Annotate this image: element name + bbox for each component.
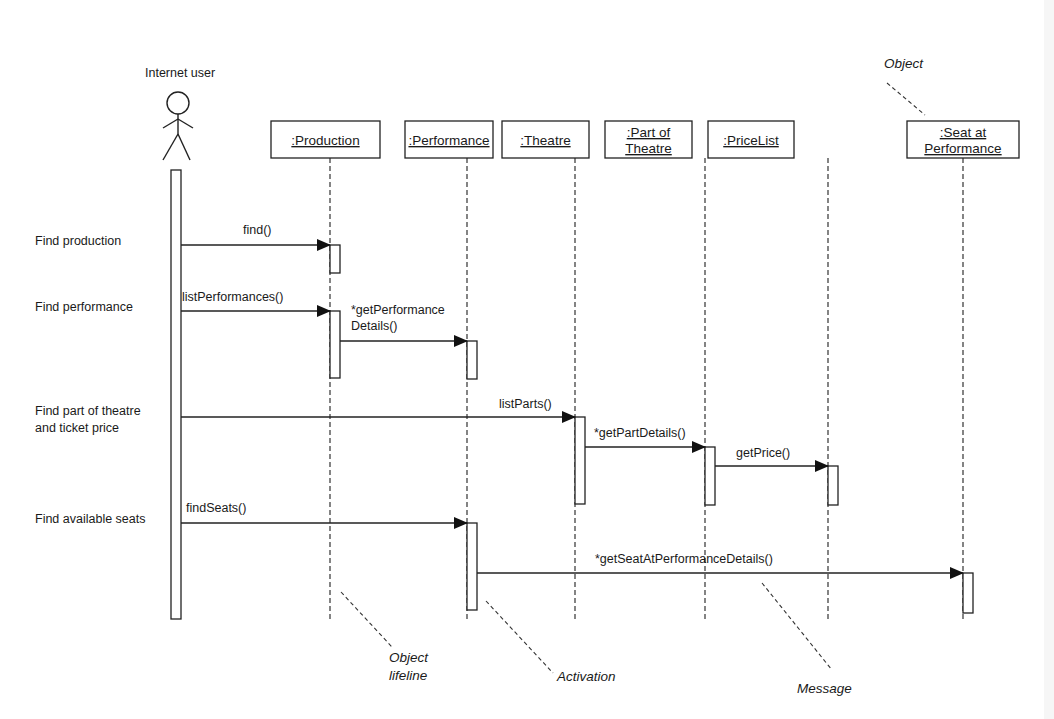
object-name: :Theatre	[520, 133, 570, 148]
message-label: find()	[243, 223, 271, 237]
annotation-label: Object	[389, 650, 429, 665]
annotation-label: Object	[884, 56, 924, 71]
message-label: findSeats()	[186, 501, 246, 515]
step-label: Find available seats	[35, 512, 145, 526]
message-label: listParts()	[499, 397, 552, 411]
page-edge	[1044, 0, 1054, 719]
annotation-leader	[762, 583, 832, 670]
object-pricelist: :PriceList	[708, 121, 794, 158]
annotation-label: lifeline	[389, 668, 427, 683]
annotation-leader	[486, 601, 553, 673]
object-boxes: :Production:Performance:Theatre:Part ofT…	[271, 121, 1019, 158]
message-label: *getPartDetails()	[594, 426, 686, 440]
object-seat-at-performance: :Seat atPerformance	[907, 121, 1019, 158]
annotation-label: Activation	[556, 669, 616, 684]
actor-label: Internet user	[145, 66, 215, 80]
object-name: :Production	[291, 133, 359, 148]
activation-production	[330, 245, 340, 273]
step-label: Find part of theatre	[35, 404, 141, 418]
annotation-leader	[341, 592, 392, 647]
object-production: :Production	[271, 121, 380, 158]
object-name: Theatre	[625, 141, 672, 156]
activation-part-of-theatre	[705, 447, 715, 505]
message: findSeats()	[181, 501, 467, 523]
object-name: Performance	[924, 141, 1001, 156]
message: *getPerformanceDetails()	[340, 303, 467, 341]
messages: find()listPerformances()*getPerformanceD…	[181, 223, 963, 573]
object-name: :Seat at	[940, 125, 987, 140]
message: *getSeatAtPerformanceDetails()	[477, 552, 963, 573]
object-performance: :Performance	[405, 121, 493, 158]
message: getPrice()	[715, 446, 828, 466]
actor-internet-user: Internet user	[145, 66, 215, 160]
sequence-diagram: Internet user :Production:Performance:Th…	[0, 0, 1054, 719]
annotation-label: Message	[797, 681, 852, 696]
message-label: *getPerformance	[351, 303, 445, 317]
message-label: listPerformances()	[182, 290, 283, 304]
step-labels: Find productionFind performanceFind part…	[35, 234, 145, 526]
object-name: :Performance	[408, 133, 489, 148]
message-label: *getSeatAtPerformanceDetails()	[595, 552, 773, 566]
activation-internet-user	[171, 170, 181, 619]
activation-performance	[467, 341, 477, 379]
step-label: Find production	[35, 234, 121, 248]
annotation-object-lifeline: Objectlifeline	[341, 592, 429, 683]
object-name: :PriceList	[723, 133, 779, 148]
activation-seat-at-performance	[963, 573, 973, 613]
annotation-leader	[887, 83, 925, 115]
message-label: getPrice()	[736, 446, 790, 460]
activation-performance	[467, 523, 477, 610]
annotation-object: Object	[884, 56, 925, 115]
activation-theatre	[575, 417, 585, 504]
annotation-message: Message	[762, 583, 852, 696]
lifelines	[330, 158, 963, 620]
message: *getPartDetails()	[585, 426, 705, 447]
message: listPerformances()	[181, 290, 330, 311]
object-theatre: :Theatre	[502, 121, 589, 158]
message: listParts()	[181, 397, 575, 417]
object-part-of-theatre: :Part ofTheatre	[605, 121, 692, 158]
stick-figure-icon	[163, 92, 193, 160]
message: find()	[181, 223, 330, 245]
step-label: Find performance	[35, 300, 133, 314]
activation-bars	[171, 170, 973, 619]
activation-pricelist	[828, 466, 838, 505]
annotation-activation: Activation	[486, 601, 616, 684]
step-label: and ticket price	[35, 421, 119, 435]
object-name: :Part of	[627, 125, 671, 140]
message-label: Details()	[351, 319, 398, 333]
activation-production	[330, 311, 340, 378]
